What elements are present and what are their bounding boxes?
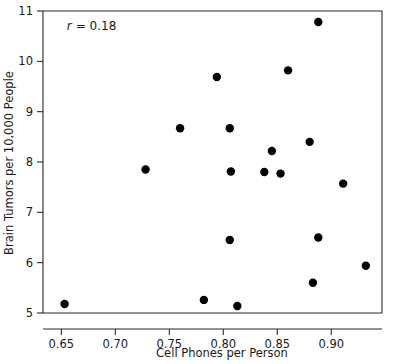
y-tick-label: 10	[18, 54, 33, 68]
data-point	[314, 18, 322, 26]
data-point	[276, 169, 284, 177]
x-tick-label: 0.70	[103, 337, 129, 351]
data-point	[213, 73, 221, 81]
chart-canvas: 567891011 0.650.700.750.800.850.90 r= 0.…	[0, 0, 394, 364]
data-point	[260, 168, 268, 176]
y-tick-label: 7	[26, 205, 33, 219]
data-point	[309, 279, 317, 287]
data-point	[268, 147, 276, 155]
data-point	[227, 167, 235, 175]
y-axis-tick-labels: 567891011	[18, 4, 33, 320]
data-point-series	[60, 18, 370, 310]
data-point	[314, 233, 322, 241]
correlation-symbol: r	[67, 19, 73, 33]
data-point	[60, 300, 68, 308]
x-axis-tick-marks	[61, 329, 331, 335]
data-point	[339, 179, 347, 187]
data-point	[141, 165, 149, 173]
correlation-value: = 0.18	[76, 19, 117, 33]
correlation-annotation: r= 0.18	[67, 19, 117, 33]
x-axis-title: Cell Phones per Person	[156, 346, 288, 360]
data-point	[226, 124, 234, 132]
data-point	[284, 66, 292, 74]
data-point	[362, 261, 370, 269]
y-tick-label: 9	[26, 105, 33, 119]
data-point	[226, 236, 234, 244]
data-point	[233, 302, 241, 310]
x-tick-label: 0.90	[318, 337, 344, 351]
y-axis-title: Brain Tumors per 10,000 People	[2, 71, 16, 255]
scatter-plot-figure: 567891011 0.650.700.750.800.850.90 r= 0.…	[0, 0, 394, 364]
y-tick-label: 5	[26, 306, 33, 320]
data-point	[176, 124, 184, 132]
y-tick-label: 8	[26, 155, 33, 169]
y-tick-label: 11	[18, 4, 33, 18]
plot-frame	[43, 11, 382, 329]
x-tick-label: 0.65	[49, 337, 75, 351]
data-point	[200, 296, 208, 304]
data-point	[305, 138, 313, 146]
y-axis-tick-marks	[37, 11, 43, 313]
y-tick-label: 6	[26, 256, 33, 270]
